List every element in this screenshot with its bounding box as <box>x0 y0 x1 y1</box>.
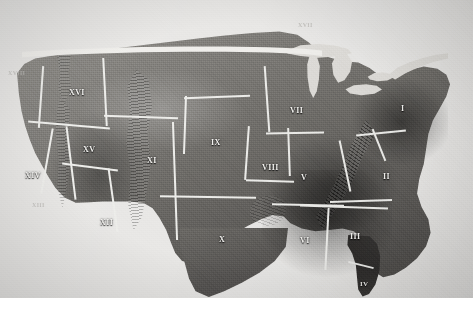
region-vii-label: VII <box>290 107 303 115</box>
region-iv-label: IV <box>360 281 369 288</box>
region-iii-label: III <box>350 233 361 241</box>
region-i-label: I <box>401 105 405 113</box>
region-v-label: V <box>301 174 307 182</box>
margin-mark-lower-left: XIII <box>32 202 45 208</box>
region-xiv-label: XIV <box>25 172 41 180</box>
region-ix-label: IX <box>211 139 221 147</box>
region-xv-label: XV <box>83 146 95 154</box>
region-xi-label: XI <box>147 157 157 165</box>
map-canvas: IIIIIIIVVVIVIIVIIIIXXXIXIIXIVXVXVI <box>0 0 473 298</box>
region-xii-label: XII <box>100 219 113 227</box>
photographic-plate: IIIIIIIVVVIVIIVIIIIXXXIXIIXIVXVXVI XVIII… <box>0 0 473 298</box>
margin-mark-canada: XVII <box>298 22 313 28</box>
map-figure: IIIIIIIVVVIVIIVIIIIXXXIXIIXIVXVXVI XVIII… <box>0 0 473 320</box>
region-vi-label: VI <box>300 237 310 245</box>
paper-bottom-margin <box>0 298 473 320</box>
region-xvi-label: XVI <box>69 89 85 97</box>
region-ii-label: II <box>383 173 390 181</box>
margin-mark-upper-left: XVIII <box>8 70 25 76</box>
gulf-coast-landmass <box>178 228 288 298</box>
region-viii-label: VIII <box>262 164 279 172</box>
region-x-label: X <box>219 236 225 244</box>
